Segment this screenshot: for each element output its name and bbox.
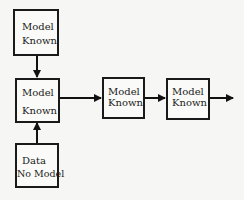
node-label-line1: Model bbox=[22, 86, 58, 99]
node-label-line2: Known bbox=[108, 96, 143, 109]
node-label-line2: Known bbox=[22, 34, 57, 47]
node-bottom-data-no-model: Data No Model bbox=[15, 143, 59, 188]
node-right2-model-known: Model Known bbox=[166, 78, 210, 120]
node-right1-model-known: Model Known bbox=[102, 77, 145, 119]
node-label-line2: No Model bbox=[17, 167, 57, 180]
node-label-line2: Known bbox=[22, 104, 58, 117]
node-label-line2: Known bbox=[172, 96, 208, 109]
node-center-model-known: Model Known bbox=[15, 78, 60, 123]
node-top-model-known: Model Known bbox=[13, 9, 59, 56]
node-label-line1: Data bbox=[22, 154, 57, 167]
node-label-line1: Model bbox=[22, 20, 57, 33]
